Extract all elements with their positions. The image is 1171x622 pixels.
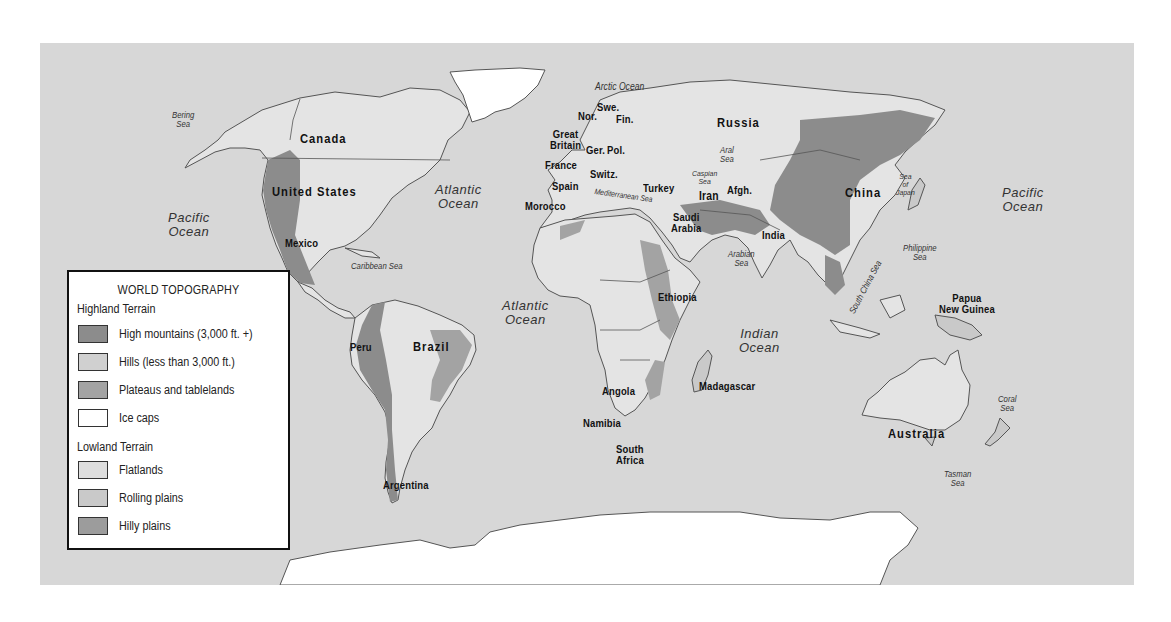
label-norway: Nor. — [578, 111, 597, 122]
label-mexico: Mexico — [285, 238, 318, 249]
label-india: India — [762, 230, 785, 241]
legend-item-flatlands: Flatlands — [78, 456, 288, 484]
legend-item-high-mountains: High mountains (3,000 ft. +) — [78, 320, 288, 348]
label-angola: Angola — [602, 386, 635, 397]
label-coral-sea: Coral Sea — [998, 395, 1017, 413]
map-legend: WORLD TOPOGRAPHY Highland Terrain High m… — [67, 270, 290, 550]
label-madagascar: Madagascar — [699, 381, 755, 392]
label-brazil: Brazil — [413, 340, 450, 353]
label-arabian-sea: Arabian Sea — [728, 250, 755, 268]
legend-swatch-high-mountains — [78, 325, 108, 343]
legend-item-hilly-plains: Hilly plains — [78, 512, 288, 540]
legend-label: Rolling plains — [119, 491, 183, 505]
label-switzerland: Switz. — [590, 169, 618, 180]
label-poland: Pol. — [607, 145, 625, 156]
legend-title: WORLD TOPOGRAPHY — [80, 283, 277, 297]
new-guinea-landmass — [935, 315, 982, 340]
label-russia: Russia — [717, 116, 760, 129]
label-turkey: Turkey — [643, 183, 674, 194]
label-iran: Iran — [699, 190, 719, 202]
central-america-landmass — [298, 282, 355, 318]
legend-swatch-hilly-plains — [78, 517, 108, 535]
legend-label: Flatlands — [119, 463, 163, 477]
label-argentina: Argentina — [383, 480, 429, 491]
label-indian-ocean: Indian Ocean — [739, 327, 780, 354]
label-afghanistan: Afgh. — [727, 185, 752, 196]
label-namibia: Namibia — [583, 418, 621, 429]
label-sea-of-japan: Sea of Japan — [896, 173, 915, 197]
label-china: China — [845, 186, 881, 199]
label-saudi-arabia: Saudi Arabia — [671, 212, 701, 234]
legend-item-plateaus: Plateaus and tablelands — [78, 376, 288, 404]
legend-swatch-hills — [78, 353, 108, 371]
label-atlantic-ocean-south: Atlantic Ocean — [502, 299, 549, 326]
legend-label: High mountains (3,000 ft. +) — [119, 327, 253, 341]
label-aral-sea: Aral Sea — [720, 146, 734, 164]
legend-label: Ice caps — [119, 411, 159, 425]
label-arctic-ocean: Arctic Ocean — [595, 82, 644, 92]
legend-label: Hills (less than 3,000 ft.) — [119, 355, 235, 369]
legend-swatch-flatlands — [78, 461, 108, 479]
label-caribbean-sea: Caribbean Sea — [351, 262, 403, 271]
label-australia: Australia — [888, 427, 945, 440]
label-ethiopia: Ethiopia — [658, 292, 697, 303]
legend-label: Plateaus and tablelands — [119, 383, 234, 397]
label-finland: Fin. — [616, 114, 634, 125]
label-spain: Spain — [552, 181, 579, 192]
label-south-africa: South Africa — [616, 444, 644, 466]
legend-lowland-heading: Lowland Terrain — [77, 440, 267, 454]
label-pacific-ocean-west: Pacific Ocean — [168, 211, 210, 238]
label-germany: Ger. — [586, 145, 605, 156]
legend-swatch-plateaus — [78, 381, 108, 399]
antarctica-landmass — [280, 512, 918, 585]
label-atlantic-ocean-north: Atlantic Ocean — [435, 183, 482, 210]
legend-swatch-rolling-plains — [78, 489, 108, 507]
label-tasman-sea: Tasman Sea — [944, 470, 971, 488]
legend-label: Hilly plains — [119, 519, 171, 533]
label-france: France — [545, 160, 577, 171]
label-peru: Peru — [350, 342, 372, 353]
label-papua-new-guinea: Papua New Guinea — [939, 293, 995, 315]
australia-landmass — [862, 350, 970, 430]
label-bering-sea: Bering Sea — [172, 111, 194, 129]
label-united-states: United States — [272, 185, 357, 198]
label-caspian-sea: Caspian Sea — [692, 170, 717, 186]
label-great-britain: Great Britain — [550, 129, 581, 151]
legend-swatch-ice-caps — [78, 409, 108, 427]
label-pacific-ocean-east: Pacific Ocean — [1002, 186, 1044, 213]
label-philippine-sea: Philippine Sea — [903, 244, 937, 262]
label-canada: Canada — [300, 132, 347, 145]
legend-item-ice-caps: Ice caps — [78, 404, 288, 432]
legend-item-rolling-plains: Rolling plains — [78, 484, 288, 512]
legend-item-hills: Hills (less than 3,000 ft.) — [78, 348, 288, 376]
label-sweden: Swe. — [597, 102, 619, 113]
legend-highland-heading: Highland Terrain — [77, 302, 267, 316]
label-morocco: Morocco — [525, 201, 566, 212]
